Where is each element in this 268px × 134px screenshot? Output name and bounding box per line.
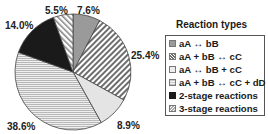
legend-item: 3-stage reactions: [169, 102, 264, 115]
legend-swatch: [169, 79, 176, 86]
legend-swatch: [169, 66, 176, 73]
slice-label: 14.0%: [5, 20, 33, 31]
legend-item: aA ↔ bB: [169, 37, 264, 50]
legend-swatch: [169, 53, 176, 60]
legend-swatch: [169, 40, 176, 47]
legend-label: aA ↔ bB + cC: [179, 64, 242, 75]
legend-item: 2-stage reactions: [169, 89, 264, 102]
legend-label: 2-stage reactions: [179, 90, 258, 101]
legend: aA ↔ bB aA + bB ↔ cC aA ↔ bB + cC aA + b…: [165, 35, 265, 116]
legend-swatch: [169, 92, 176, 99]
legend-label: aA + bB ↔ cC + dD: [179, 77, 266, 88]
slice-label: 5.5%: [45, 5, 68, 16]
legend-label: aA ↔ bB: [179, 38, 219, 49]
slice-label: 7.6%: [77, 5, 100, 16]
legend-item: aA + bB ↔ cC: [169, 50, 264, 63]
slice-label: 38.6%: [7, 121, 35, 132]
legend-label: 3-stage reactions: [179, 103, 258, 114]
legend-item: aA ↔ bB + cC: [169, 63, 264, 76]
legend-title: Reaction types: [176, 19, 247, 30]
slice-label: 8.9%: [117, 120, 140, 131]
slice-label: 25.4%: [131, 50, 159, 61]
legend-item: aA + bB ↔ cC + dD: [169, 76, 264, 89]
legend-label: aA + bB ↔ cC: [179, 51, 242, 62]
legend-swatch: [169, 105, 176, 112]
